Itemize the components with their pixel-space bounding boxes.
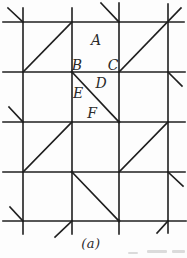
- edge-diagonal-tick: [168, 172, 183, 186]
- junction-dot: [71, 171, 74, 174]
- diagonal-line: [72, 172, 119, 221]
- edge-diagonal-tick: [168, 72, 182, 86]
- vertex-label-A: A: [89, 32, 101, 48]
- vertex-label-F: F: [86, 105, 98, 121]
- lattice-figure: ABCDEF (a): [0, 0, 187, 258]
- diagonal-lines: [23, 8, 181, 221]
- faint-cropped-print-artifact: [172, 250, 185, 253]
- diagonal-line: [119, 8, 181, 72]
- edge-diagonal-tick: [10, 207, 23, 221]
- vertex-label-C: C: [108, 57, 119, 73]
- diagonal-line: [23, 122, 72, 172]
- vertex-label-B: B: [71, 57, 82, 73]
- figure-caption: (a): [0, 236, 182, 251]
- vertex-labels: ABCDEF: [71, 32, 119, 121]
- edge-diagonal-tick: [157, 221, 168, 233]
- lattice-svg: ABCDEF: [0, 0, 187, 258]
- edge-diagonal-tick: [55, 221, 72, 237]
- junction-dot: [118, 121, 121, 124]
- faint-cropped-print-artifact: [128, 252, 138, 254]
- vertex-label-D: D: [94, 75, 106, 91]
- diagonal-line: [23, 22, 72, 72]
- edge-diagonal-tick: [101, 3, 119, 22]
- diagonal-line: [119, 122, 168, 172]
- faint-cropped-print-artifact: [147, 250, 167, 253]
- horizontal-grid-lines: [3, 22, 186, 221]
- edge-diagonal-tick: [8, 8, 23, 22]
- junction-dot: [118, 220, 121, 223]
- edge-diagonal-tick: [9, 107, 23, 122]
- vertex-label-E: E: [72, 85, 83, 101]
